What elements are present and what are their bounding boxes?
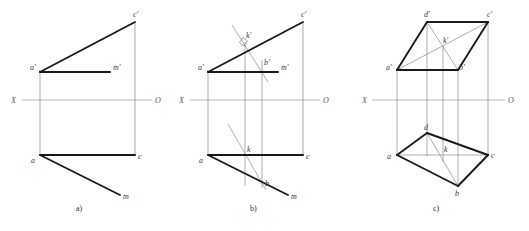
panel-b-label-k-prime: k' xyxy=(246,31,252,40)
panel-b-caption: b) xyxy=(250,204,257,213)
panel-a-caption: a) xyxy=(76,204,83,213)
panel-c-label-k-prime: k' xyxy=(443,36,449,45)
panel-a-label-c-prime: c' xyxy=(133,10,139,19)
panel-c-label-b-prime: b' xyxy=(459,63,465,72)
panel-c-label-a: a xyxy=(387,152,391,161)
panel-c-label-b: b xyxy=(455,189,459,198)
panel-c-label-c-prime: c' xyxy=(487,10,493,19)
panel-b-label-a-prime: a' xyxy=(198,63,204,72)
panel-b-label-m-prime: m' xyxy=(281,63,289,72)
panel-b-label-c-prime: c' xyxy=(301,10,307,19)
panel-b-label-c: c xyxy=(306,152,310,161)
canvas-background xyxy=(0,0,529,231)
panel-a-label-a-prime: a' xyxy=(30,63,36,72)
panel-b-label-m: m xyxy=(291,192,297,201)
panel-b-axis-label-o: O xyxy=(323,96,329,105)
panel-b-label-a: a xyxy=(199,156,203,165)
panel-b-label-k: k xyxy=(247,145,251,154)
projection-drawing: X O a' c' m' a c m a) X O a' c' m' xyxy=(0,0,529,231)
panel-a-label-c: c xyxy=(138,152,142,161)
panel-a-label-a: a xyxy=(31,156,35,165)
panel-c-axis-label-o: O xyxy=(508,96,514,105)
panel-b-label-b-prime: b' xyxy=(264,58,270,67)
figure-root: X O a' c' m' a c m a) X O a' c' m' xyxy=(0,0,529,231)
panel-b-label-b: b xyxy=(265,179,269,188)
panel-a-axis-label-o: O xyxy=(155,96,161,105)
panel-c-caption: c) xyxy=(433,204,440,213)
panel-a-label-m: m xyxy=(123,192,129,201)
panel-c-label-d-prime: d' xyxy=(424,10,430,19)
panel-c-label-c: c xyxy=(491,151,495,160)
panel-c-label-a-prime: a' xyxy=(386,63,392,72)
panel-c-label-k: k xyxy=(444,145,448,154)
panel-a-label-m-prime: m' xyxy=(113,63,121,72)
